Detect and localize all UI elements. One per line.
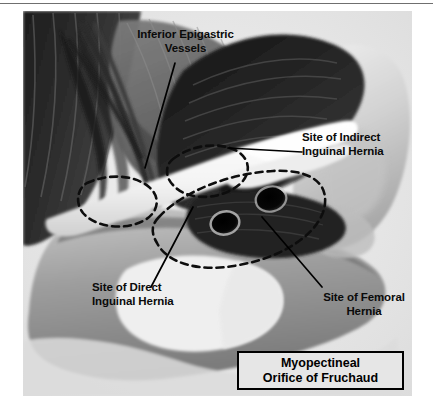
figure-page: Inferior Epigastric Vessels Site of Indi… bbox=[0, 0, 433, 420]
label-inferior-epigastric-vessels: Inferior Epigastric Vessels bbox=[108, 28, 263, 55]
label-site-of-femoral-hernia: Site of Femoral Hernia bbox=[303, 291, 425, 318]
label-line-2: Inguinal Hernia bbox=[92, 295, 174, 309]
caption-box: Myopectineal Orifice of Fruchaud bbox=[237, 351, 404, 390]
label-site-of-indirect-inguinal-hernia: Site of Indirect Inguinal Hernia bbox=[302, 131, 384, 158]
label-line-1: Inferior Epigastric bbox=[108, 28, 263, 42]
anatomy-illustration-svg bbox=[23, 11, 412, 396]
caption-line-2: Orifice of Fruchaud bbox=[263, 371, 378, 386]
caption-text: Myopectineal Orifice of Fruchaud bbox=[263, 356, 378, 386]
label-line-2: Inguinal Hernia bbox=[302, 145, 384, 159]
label-site-of-direct-inguinal-hernia: Site of Direct Inguinal Hernia bbox=[92, 281, 174, 308]
top-divider-rule bbox=[0, 3, 433, 4]
label-line-2: Hernia bbox=[303, 305, 425, 319]
label-line-1: Site of Femoral bbox=[303, 291, 425, 305]
label-line-1: Site of Indirect bbox=[302, 131, 384, 145]
anatomy-figure-panel bbox=[23, 11, 412, 396]
label-line-2: Vessels bbox=[108, 42, 263, 56]
label-line-1: Site of Direct bbox=[92, 281, 174, 295]
caption-line-1: Myopectineal bbox=[263, 356, 378, 371]
